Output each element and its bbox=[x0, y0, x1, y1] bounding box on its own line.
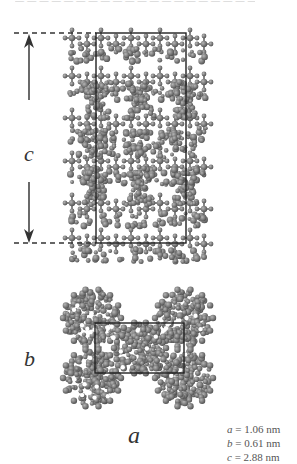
end-view-molecular-packing bbox=[60, 287, 216, 410]
lattice-param-c: c = 2.88 nm bbox=[227, 450, 280, 464]
arrow-down-icon bbox=[24, 182, 34, 243]
arrow-up-icon bbox=[24, 34, 34, 100]
lattice-param-b: b = 0.61 nm bbox=[227, 436, 280, 450]
a-axis-label: a bbox=[128, 423, 140, 447]
crystal-structure-figure bbox=[0, 0, 297, 464]
b-axis-label: b bbox=[24, 348, 35, 370]
lattice-param-a: a = 1.06 nm bbox=[227, 422, 280, 436]
c-axis-label: c bbox=[24, 143, 34, 165]
lattice-parameters: a = 1.06 nm b = 0.61 nm c = 2.88 nm bbox=[227, 422, 280, 464]
side-view-molecular-packing bbox=[63, 28, 214, 265]
